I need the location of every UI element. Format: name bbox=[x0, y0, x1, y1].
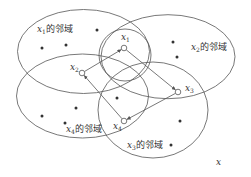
neighborhood-label-n1: x1的邻域 bbox=[37, 25, 73, 35]
node-label-x3: x3 bbox=[185, 84, 194, 94]
node-x1 bbox=[121, 45, 127, 51]
node-label-x2: x2 bbox=[70, 63, 79, 73]
neighborhood-label-n3: x3的邻域 bbox=[127, 141, 163, 151]
node-label-x4: x4 bbox=[113, 122, 122, 132]
sample-point bbox=[179, 120, 182, 123]
path-nodes bbox=[79, 45, 181, 124]
sample-point bbox=[170, 144, 173, 147]
sample-point bbox=[116, 97, 119, 100]
space-label-text: x bbox=[216, 157, 221, 167]
node-x2 bbox=[79, 70, 85, 76]
sample-point bbox=[172, 41, 175, 44]
sample-point bbox=[65, 44, 68, 47]
node-label-x1: x1 bbox=[121, 33, 130, 43]
neighborhood-label-n4: x4的邻域 bbox=[66, 125, 102, 135]
sample-point bbox=[41, 47, 44, 50]
node-x4 bbox=[121, 118, 127, 124]
sample-point bbox=[176, 56, 179, 59]
sample-point bbox=[96, 29, 99, 32]
sample-points bbox=[41, 29, 182, 147]
neighborhood-label-n2: x2的邻域 bbox=[191, 43, 227, 53]
space-label: x bbox=[216, 158, 221, 167]
neighborhood-diagram: x1的邻域x2的邻域x4的邻域x3的邻域x1x2x3x4 x bbox=[0, 0, 251, 177]
node-x3 bbox=[175, 89, 181, 95]
sample-point bbox=[75, 107, 78, 110]
sample-point bbox=[41, 115, 44, 118]
